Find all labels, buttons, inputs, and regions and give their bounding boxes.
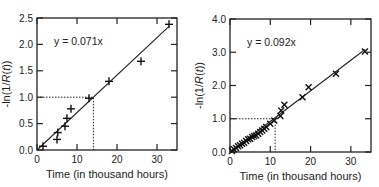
y-tick-label: 2.0 [19, 39, 33, 50]
left-chart: 01020300.00.51.01.52.02.5y = 0.071xTime … [0, 0, 190, 187]
x-tick-label: 20 [111, 154, 123, 165]
y-axis-label: -ln(1/R(t)) [193, 62, 205, 109]
y-tick-label: 1.0 [212, 113, 226, 124]
x-tick-label: 0 [227, 156, 233, 167]
y-tick-label: 1.0 [19, 92, 33, 103]
data-point-marker [53, 135, 61, 143]
y-tick-label: 0.0 [212, 147, 226, 158]
x-tick-label: 0 [34, 154, 40, 165]
y-tick-label: 0.0 [19, 145, 33, 156]
left-chart-svg: 01020300.00.51.01.52.02.5y = 0.071xTime … [0, 0, 190, 187]
data-point-marker [85, 94, 93, 102]
data-point-marker [137, 57, 145, 65]
y-tick-label: 2.5 [19, 13, 33, 24]
y-tick-label: 2.0 [212, 80, 226, 91]
x-axis-label: Time (in thousand hours) [240, 170, 362, 182]
right-chart-svg: 01020300.01.02.03.04.0y = 0.092xTime (in… [190, 0, 379, 187]
y-tick-label: 3.0 [212, 47, 226, 58]
x-tick-label: 10 [265, 156, 277, 167]
y-tick-label: 0.5 [19, 118, 33, 129]
data-point-marker [306, 84, 312, 90]
x-tick-label: 30 [151, 154, 163, 165]
data-point-marker [39, 142, 47, 150]
data-point-marker [300, 94, 306, 100]
x-tick-label: 10 [71, 154, 83, 165]
data-point-marker [63, 114, 71, 122]
equation-label: y = 0.092x [247, 36, 296, 48]
data-point-marker [281, 102, 287, 108]
y-axis-label: -ln(1/R(t)) [0, 60, 12, 107]
y-tick-label: 1.5 [19, 65, 33, 76]
x-tick-label: 30 [345, 156, 357, 167]
x-tick-label: 20 [305, 156, 317, 167]
x-axis-label: Time (in thousand hours) [46, 168, 168, 180]
data-point-marker [54, 129, 62, 137]
data-point-marker [67, 105, 75, 113]
equation-label: y = 0.071x [54, 35, 103, 47]
data-point-marker [105, 77, 113, 85]
y-tick-label: 4.0 [212, 14, 226, 25]
data-point-marker [61, 122, 69, 130]
data-point-marker [165, 20, 173, 28]
right-chart: 01020300.01.02.03.04.0y = 0.092xTime (in… [190, 0, 379, 187]
